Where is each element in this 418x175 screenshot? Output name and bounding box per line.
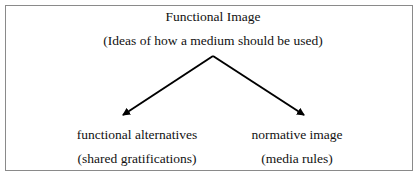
arrow-to-normative-image (213, 56, 304, 115)
child-normative-image-subtitle: (media rules) (261, 151, 333, 167)
arrow-to-functional-alternatives (123, 56, 213, 115)
child-functional-alternatives-title: functional alternatives (77, 127, 197, 143)
branch-arrows (0, 0, 418, 175)
child-normative-image-title: normative image (251, 127, 342, 143)
child-functional-alternatives-subtitle: (shared gratifications) (78, 151, 197, 167)
